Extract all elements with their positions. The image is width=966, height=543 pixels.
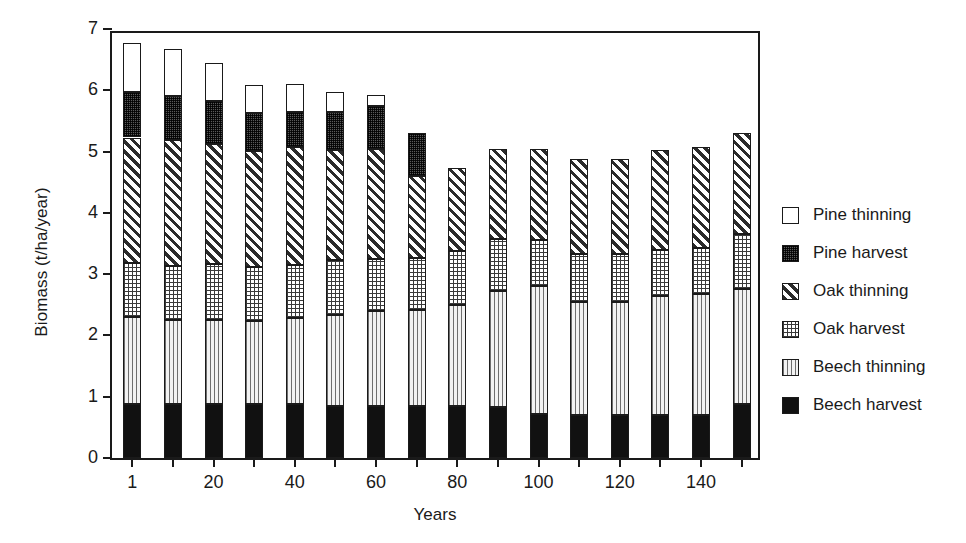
x-axis-title: Years <box>110 505 760 525</box>
bar-segment-pine-thinning <box>205 63 223 102</box>
bar-segment-pine-thinning <box>326 92 344 112</box>
bar-segment-beech-harvest <box>123 404 141 458</box>
legend-swatch-icon <box>782 283 799 300</box>
bar-segment-beech-harvest <box>164 404 182 458</box>
x-tick-mark <box>131 458 133 467</box>
bar-segment-pine-harvest <box>408 133 426 176</box>
bar-segment-beech-harvest <box>692 415 710 458</box>
x-tick-label: 80 <box>417 472 497 493</box>
bar-segment-oak-thinning <box>733 133 751 234</box>
bar-segment-beech-harvest <box>611 415 629 458</box>
bar-stack <box>448 29 466 458</box>
y-tick-mark <box>103 212 112 214</box>
bar-segment-pine-harvest <box>286 112 304 148</box>
x-tick-mark <box>538 458 540 467</box>
bar-segment-oak-harvest <box>164 266 182 320</box>
plot-area: 01234567120406080100120140 <box>110 31 760 460</box>
x-tick-mark <box>659 458 661 467</box>
bar-segment-oak-thinning <box>245 151 263 267</box>
bar-segment-beech-harvest <box>570 415 588 458</box>
bar-segment-oak-thinning <box>408 176 426 258</box>
x-tick-mark <box>497 458 499 467</box>
bar-segment-pine-harvest <box>326 112 344 150</box>
bar-segment-beech-thinning <box>326 315 344 406</box>
y-tick-mark <box>103 273 112 275</box>
legend-item[interactable]: Beech harvest <box>782 386 966 424</box>
y-tick-mark <box>103 396 112 398</box>
bar-segment-oak-harvest <box>367 259 385 311</box>
bar-segment-oak-harvest <box>530 240 548 286</box>
bar-stack <box>164 29 182 458</box>
bar-stack <box>651 29 669 458</box>
bar-stack <box>530 29 548 458</box>
y-tick-label: 2 <box>88 323 98 345</box>
bar-segment-pine-harvest <box>245 113 263 151</box>
x-tick-label: 60 <box>336 472 416 493</box>
bar-segment-beech-thinning <box>651 296 669 416</box>
legend-swatch-icon <box>782 397 799 414</box>
legend-item[interactable]: Oak harvest <box>782 310 966 348</box>
legend-item[interactable]: Beech thinning <box>782 348 966 386</box>
bar-segment-oak-thinning <box>164 140 182 266</box>
bar-segment-beech-harvest <box>733 404 751 458</box>
bar-stack <box>408 29 426 458</box>
bar-segment-oak-thinning <box>448 168 466 251</box>
bar-segment-oak-harvest <box>692 248 710 294</box>
bar-segment-beech-harvest <box>651 415 669 458</box>
y-tick-mark <box>103 151 112 153</box>
y-tick-label: 5 <box>88 140 98 162</box>
bar-segment-oak-thinning <box>651 150 669 250</box>
bar-stack <box>286 29 304 458</box>
bar-stack <box>611 29 629 458</box>
bar-segment-pine-harvest <box>205 101 223 144</box>
legend-item[interactable]: Pine thinning <box>782 196 966 234</box>
x-tick-mark <box>253 458 255 467</box>
bar-segment-beech-thinning <box>530 286 548 413</box>
bar-segment-oak-harvest <box>408 258 426 310</box>
legend-label: Beech thinning <box>813 357 925 377</box>
bar-segment-beech-thinning <box>611 302 629 415</box>
bar-segment-oak-harvest <box>205 264 223 320</box>
bar-segment-oak-thinning <box>326 150 344 260</box>
x-tick-mark <box>700 458 702 467</box>
bar-segment-oak-thinning <box>692 147 710 248</box>
bar-segment-beech-harvest <box>367 406 385 458</box>
bar-stack <box>489 29 507 458</box>
bar-segment-oak-harvest <box>123 263 141 317</box>
legend-swatch-icon <box>782 321 799 338</box>
y-tick-label: 4 <box>88 201 98 223</box>
x-tick-label: 120 <box>580 472 660 493</box>
legend-item[interactable]: Pine harvest <box>782 234 966 272</box>
bar-segment-oak-thinning <box>123 138 141 264</box>
bar-segment-oak-thinning <box>286 147 304 265</box>
y-tick-label: 0 <box>88 446 98 468</box>
y-tick-mark <box>103 334 112 336</box>
legend-swatch-icon <box>782 207 799 224</box>
bar-segment-oak-harvest <box>651 250 669 296</box>
bar-segment-beech-harvest <box>489 407 507 458</box>
y-tick-mark <box>103 457 112 459</box>
legend-label: Oak harvest <box>813 319 905 339</box>
bar-segment-beech-thinning <box>164 320 182 405</box>
x-tick-label: 100 <box>499 472 579 493</box>
bar-segment-pine-harvest <box>367 106 385 149</box>
x-tick-mark <box>456 458 458 467</box>
bar-segment-oak-harvest <box>733 234 751 289</box>
legend-item[interactable]: Oak thinning <box>782 272 966 310</box>
bar-segment-oak-thinning <box>611 159 629 254</box>
legend-label: Pine harvest <box>813 243 908 263</box>
x-tick-mark <box>741 458 743 467</box>
bar-stack <box>570 29 588 458</box>
y-tick-label: 6 <box>88 78 98 100</box>
x-tick-mark <box>578 458 580 467</box>
bar-segment-beech-thinning <box>205 320 223 404</box>
x-tick-mark <box>375 458 377 467</box>
x-tick-mark <box>334 458 336 467</box>
y-tick-label: 3 <box>88 262 98 284</box>
bar-segment-beech-harvest <box>205 404 223 458</box>
bar-segment-pine-harvest <box>164 96 182 140</box>
bar-segment-beech-harvest <box>286 404 304 458</box>
y-tick-mark <box>103 28 112 30</box>
y-tick-mark <box>103 89 112 91</box>
bar-segment-beech-harvest <box>326 406 344 458</box>
